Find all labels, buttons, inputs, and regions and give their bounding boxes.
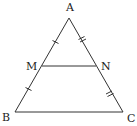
triangle-diagram: A B C M N <box>0 0 137 126</box>
tick-mark-nc-2 <box>108 94 114 97</box>
tick-mark-nc-1 <box>106 91 112 94</box>
vertex-label-a: A <box>65 1 75 14</box>
vertex-label-b: B <box>2 111 10 124</box>
vertex-label-c: C <box>127 112 135 125</box>
point-label-m: M <box>26 60 37 73</box>
side-ac <box>69 18 123 112</box>
side-ab <box>15 18 69 112</box>
point-label-n: N <box>101 60 111 73</box>
